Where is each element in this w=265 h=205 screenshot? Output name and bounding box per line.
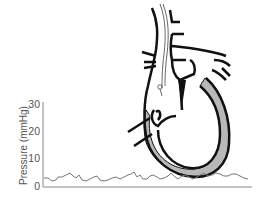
pulmonary-artery-top <box>171 34 227 60</box>
catheter-balloon <box>158 85 162 89</box>
catheter-tip <box>160 89 162 96</box>
y-tick-30: 30 <box>26 98 40 110</box>
y-tick-0: 0 <box>26 180 40 192</box>
y-tick-10: 10 <box>26 152 40 164</box>
y-axis-label: Pressure (mmHg) <box>18 101 29 191</box>
ventricle-wall <box>144 78 229 176</box>
catheter <box>160 4 165 88</box>
vessel-right <box>170 10 180 22</box>
septum-tip <box>178 80 186 106</box>
tricuspid-valve <box>152 110 176 126</box>
right-branches <box>212 60 230 80</box>
pressure-trace <box>44 172 248 181</box>
catheter-inner <box>163 4 168 86</box>
chamber-outline <box>158 86 220 168</box>
vessel-left <box>148 8 157 86</box>
y-tick-20: 20 <box>26 125 40 137</box>
